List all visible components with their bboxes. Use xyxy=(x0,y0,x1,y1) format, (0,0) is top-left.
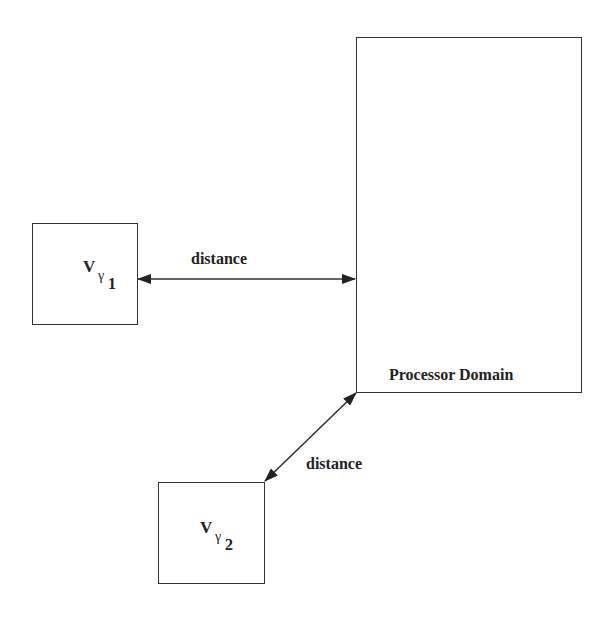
v-gamma-1-box: V γ 1 xyxy=(32,223,138,325)
v-gamma-2-index: 2 xyxy=(225,536,233,554)
processor-domain-box: Processor Domain xyxy=(356,37,582,393)
v-gamma-2-greek: γ xyxy=(215,529,221,545)
v-gamma-2-box: V γ 2 xyxy=(158,482,265,584)
v-gamma-2-label: V xyxy=(200,518,212,538)
v-gamma-1-greek: γ xyxy=(98,268,104,284)
diagram-canvas: V γ 1 Processor Domain V γ 2 distance di… xyxy=(0,0,607,621)
v-gamma-1-index: 1 xyxy=(108,275,116,293)
diagonal-distance-label: distance xyxy=(306,455,362,473)
horizontal-distance-label: distance xyxy=(191,250,247,268)
v-gamma-1-label: V xyxy=(83,257,95,277)
processor-domain-label: Processor Domain xyxy=(389,366,513,384)
